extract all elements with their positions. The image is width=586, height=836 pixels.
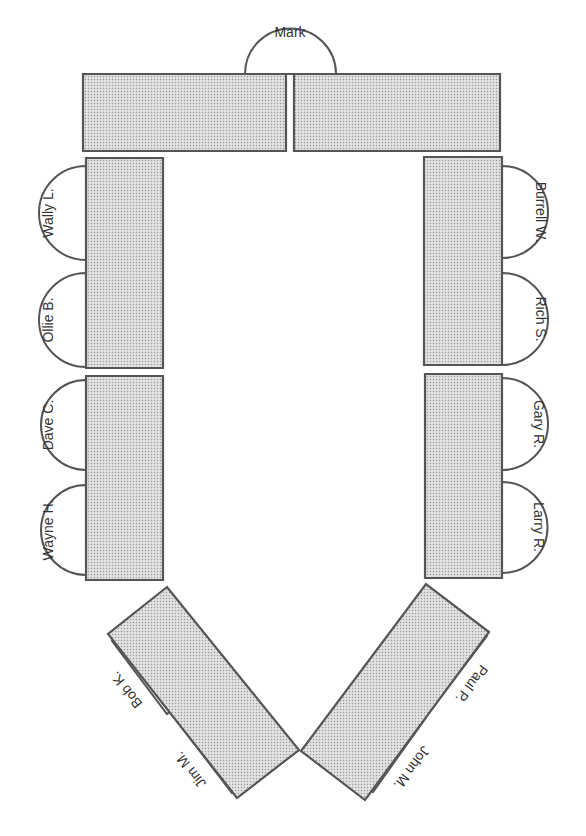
seat-label: Gary R. xyxy=(531,400,547,448)
table-left-lower xyxy=(86,376,163,580)
seat-label: Wayne H. xyxy=(40,500,56,561)
seating-diagram: MarkWally L.Ollie B.Dave C.Wayne H.Burre… xyxy=(0,0,586,836)
seat-label: Ollie B. xyxy=(40,297,56,342)
seat-label: Mark xyxy=(274,24,306,40)
table-right-upper xyxy=(424,157,502,365)
seat-label: Larry R. xyxy=(531,502,547,552)
seat-label: Rich S. xyxy=(533,296,549,341)
table-top-left xyxy=(83,74,286,151)
seat-label: Wally L. xyxy=(40,188,56,237)
table-top-right xyxy=(294,74,500,151)
seat-label: Burrell W. xyxy=(533,182,549,243)
table-left-upper xyxy=(86,158,163,368)
table-right-lower xyxy=(425,374,502,578)
seat-label: Dave C. xyxy=(40,400,56,451)
